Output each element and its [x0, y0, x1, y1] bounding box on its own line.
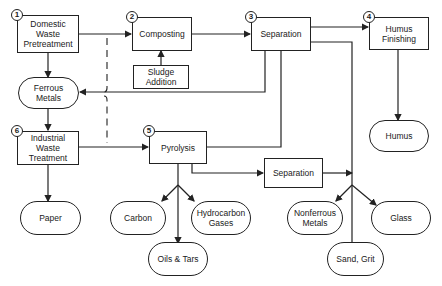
process-label: Humus Finishing [382, 24, 416, 44]
ferrous-metals-output: Ferrous Metals [18, 77, 79, 109]
paper-output: Paper [20, 201, 81, 235]
step-badge: 6 [11, 125, 23, 137]
output-label: Hydrocarbon Gases [197, 208, 246, 228]
output-label: Sand, Grit [336, 254, 374, 264]
separation-2-box: Separation [264, 158, 323, 188]
step-badge: 4 [363, 11, 375, 23]
humus-output: Humus [369, 120, 429, 152]
domestic-waste-pretreatment-box: Domestic Waste Pretreatment [17, 15, 79, 53]
process-label: Separation [260, 29, 301, 39]
step-badge: 1 [11, 9, 23, 21]
process-label: Industrial Waste Treatment [29, 133, 67, 163]
carbon-output: Carbon [110, 201, 166, 235]
output-label: Glass [390, 213, 412, 223]
industrial-waste-treatment-box: Industrial Waste Treatment [17, 131, 79, 165]
glass-output: Glass [371, 201, 431, 235]
separation-box: Separation [251, 17, 311, 51]
output-label: Humus [386, 131, 413, 141]
output-label: Ferrous Metals [34, 83, 63, 103]
step-badge: 3 [245, 11, 257, 23]
hydrocarbon-gases-output: Hydrocarbon Gases [191, 201, 251, 235]
pyrolysis-box: Pyrolysis [149, 131, 207, 164]
process-label: Composting [139, 29, 184, 39]
nonferrous-metals-output: Nonferrous Metals [287, 201, 343, 235]
sludge-addition-box: Sludge Addition [133, 65, 189, 89]
process-label: Pyrolysis [161, 143, 195, 153]
process-label: Domestic Waste Pretreatment [23, 19, 72, 49]
step-badge: 2 [126, 11, 138, 23]
humus-finishing-box: Humus Finishing [369, 17, 429, 50]
process-label: Sludge Addition [146, 67, 177, 87]
process-label: Separation [273, 168, 314, 178]
sand-grit-output: Sand, Grit [327, 242, 384, 276]
output-label: Carbon [124, 213, 152, 223]
composting-box: Composting [132, 17, 192, 51]
output-label: Nonferrous Metals [294, 208, 336, 228]
oils-tars-output: Oils & Tars [148, 242, 208, 276]
step-badge: 5 [143, 125, 155, 137]
output-label: Oils & Tars [158, 254, 199, 264]
output-label: Paper [39, 213, 62, 223]
